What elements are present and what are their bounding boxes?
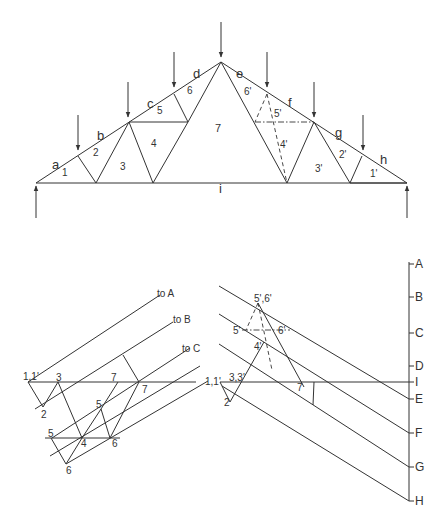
force-left-label: 2 [41,409,47,420]
truss-label: a [52,157,60,172]
truss-label: e [236,66,243,81]
force-line [313,382,314,405]
truss-label: h [380,152,387,167]
load-line-label: G [415,460,424,474]
force-right-label: 5',6' [254,293,272,304]
force-left-label: to B [173,314,191,325]
truss-member [174,94,188,122]
force-left-label: 1,1' [23,371,39,382]
load-line-label: H [415,494,424,508]
load-line-label: C [415,326,424,340]
truss-label: d [193,66,200,81]
force-left-label: to C [182,343,200,354]
truss-member [221,62,287,183]
force-left-label: 7 [111,372,117,383]
truss-label: g [335,125,342,140]
truss-label: 6 [187,85,193,96]
force-line [51,438,66,464]
force-line [52,348,190,438]
truss-label: 3' [315,163,323,174]
force-line [43,382,58,407]
truss-label: 1 [62,167,68,178]
force-right-label: 5' [233,325,241,336]
truss-label: c [147,96,154,111]
truss-label: 6' [244,86,252,97]
load-line-label: B [415,290,423,304]
force-line [219,314,409,433]
truss-dashed-member [255,94,267,122]
load-line-label: A [415,257,423,271]
force-line [123,355,139,382]
force-left-label: 6 [66,465,72,476]
force-left-label: 3 [56,372,62,383]
force-diagram-right: ABCDIEFGH5',6'5'6'4'1,1'3,3'72 [205,257,424,508]
force-line [35,322,173,409]
force-line [82,409,101,438]
force-left-label: to A [157,288,175,299]
truss-member [350,156,362,183]
load-line-label: I [415,375,418,389]
truss-member [287,122,314,183]
force-line [101,382,118,409]
truss-label: b [97,128,104,143]
truss-label: 3 [120,161,126,172]
load-line-label: D [415,359,424,373]
truss-label: 4 [151,138,157,149]
force-left-label: 6 [112,438,118,449]
truss-diagram: abcdefghi12345676'5'4'3'2'1' to Ato Bto … [0,0,442,523]
truss-label: 7 [215,122,221,134]
load-line-label: F [415,426,422,440]
truss-label: 5 [157,105,163,116]
truss-label: 5' [274,108,282,119]
truss-label: 4' [280,139,288,150]
force-left-label: 7 [142,384,148,395]
force-line [28,295,160,382]
force-line [219,344,409,467]
force-line [66,381,208,464]
truss-label: f [288,95,292,110]
force-right-label: 7 [297,382,303,393]
force-dashed-line [246,303,258,330]
force-line [258,303,304,387]
force-line [101,409,110,438]
roof-truss: abcdefghi12345676'5'4'3'2'1' [36,22,407,218]
truss-member [78,156,96,183]
truss-label: 2' [339,149,347,160]
force-left-label: 4 [81,438,87,449]
force-right-label: 3,3' [229,372,245,383]
truss-label: 1' [370,168,378,179]
truss-label: 2 [93,147,99,158]
force-right-label: 6' [278,325,286,336]
force-line [28,382,43,407]
force-left-label: 5 [96,399,102,410]
truss-label: i [219,181,222,196]
force-left-label: 5 [48,428,54,439]
force-diagram-left: to Ato Bto C1,1'377255466 [23,288,208,476]
load-line-label: E [415,392,423,406]
force-right-label: 1,1' [205,376,221,387]
force-right-label: 4' [254,341,262,352]
force-line [50,366,200,456]
force-right-label: 2 [224,397,230,408]
force-line [58,382,82,438]
force-line [222,386,409,501]
truss-member [129,122,153,183]
truss-member [153,122,188,183]
